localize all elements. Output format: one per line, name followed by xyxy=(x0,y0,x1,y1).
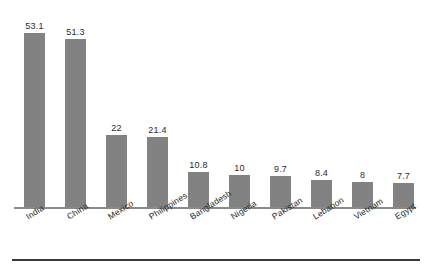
category-slot-8: Lebanon xyxy=(301,210,342,256)
bar-group-8[interactable]: 8.4 xyxy=(301,8,342,208)
footer-rule xyxy=(12,259,420,261)
bar-value-label: 8 xyxy=(360,170,365,180)
bar-value-label: 8.4 xyxy=(315,168,328,178)
plot-area: 53.1 51.3 22 21.4 10.8 xyxy=(14,8,416,208)
bar-group-3[interactable]: 22 xyxy=(96,8,137,208)
bar-group-10[interactable]: 7.7 xyxy=(383,8,424,208)
bar-rect[interactable] xyxy=(147,137,168,208)
category-slot-6: Nigeria xyxy=(219,210,260,256)
bar-column: 10.8 xyxy=(178,8,219,208)
category-slot-9: Vietnam xyxy=(342,210,383,256)
category-slot-1: India xyxy=(14,210,55,256)
category-slot-2: China xyxy=(55,210,96,256)
category-slot-10: Egypt xyxy=(383,210,424,256)
category-slot-7: Pakistan xyxy=(260,210,301,256)
bar-group-7[interactable]: 9.7 xyxy=(260,8,301,208)
bar-value-label: 51.3 xyxy=(66,27,84,37)
bar-value-label: 9.7 xyxy=(274,164,287,174)
bar-group-9[interactable]: 8 xyxy=(342,8,383,208)
bar-value-label: 22 xyxy=(111,123,121,133)
bar-column: 21.4 xyxy=(137,8,178,208)
bar-group-4[interactable]: 21.4 xyxy=(137,8,178,208)
bar-column: 51.3 xyxy=(55,8,96,208)
bar-column: 7.7 xyxy=(383,8,424,208)
bar-value-label: 21.4 xyxy=(148,125,166,135)
bar-value-label: 10.8 xyxy=(189,160,207,170)
category-slot-5: Bangladesh xyxy=(178,210,219,256)
bar-column: 8.4 xyxy=(301,8,342,208)
category-slot-4: Philippines xyxy=(137,210,178,256)
bar-rect[interactable] xyxy=(65,39,86,208)
bar-rect[interactable] xyxy=(24,33,45,208)
bar-group-1[interactable]: 53.1 xyxy=(14,8,55,208)
bar-value-label: 10 xyxy=(234,163,244,173)
category-axis-labels: India China Mexico Philippines Banglades… xyxy=(14,210,416,256)
bar-column: 22 xyxy=(96,8,137,208)
bar-group-5[interactable]: 10.8 xyxy=(178,8,219,208)
category-slot-3: Mexico xyxy=(96,210,137,256)
bar-group-2[interactable]: 51.3 xyxy=(55,8,96,208)
bar-column: 10 xyxy=(219,8,260,208)
bar-chart: 53.1 51.3 22 21.4 10.8 xyxy=(0,0,432,272)
bar-value-label: 53.1 xyxy=(25,21,43,31)
bar-column: 53.1 xyxy=(14,8,55,208)
bar-column: 9.7 xyxy=(260,8,301,208)
bar-rect[interactable] xyxy=(106,135,127,208)
bar-column: 8 xyxy=(342,8,383,208)
bar-value-label: 7.7 xyxy=(397,171,410,181)
bar-group-6[interactable]: 10 xyxy=(219,8,260,208)
